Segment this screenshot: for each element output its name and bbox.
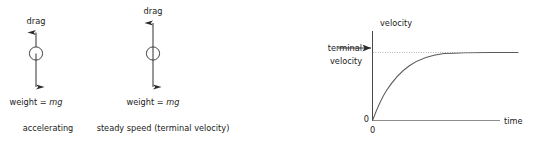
drag-label-2: drag [144, 6, 163, 16]
weight-label-2: weight = mg [127, 97, 180, 107]
weight-label-symbol-2: mg [166, 97, 179, 107]
chart-x-origin-label: 0 [370, 125, 375, 135]
velocity-curve [373, 53, 519, 121]
figure-root: drag weight = mg accelerating drag weigh… [0, 0, 536, 144]
weight-label-1: weight = mg [10, 97, 63, 107]
weight-label-symbol-1: mg [49, 97, 62, 107]
physics-figure-canvas: drag weight = mg accelerating drag weigh… [0, 0, 536, 144]
free-body-diagram-terminal-velocity: drag weight = mg steady speed (terminal … [97, 6, 230, 133]
terminal-velocity-annotation-line2: velocity [330, 56, 362, 66]
free-body-diagram-accelerating: drag weight = mg accelerating [10, 16, 74, 133]
velocity-time-chart: velocity time terminal velocity 0 0 [328, 18, 523, 135]
chart-x-axis-label: time [504, 116, 523, 126]
weight-label-prefix-2: weight = [127, 97, 167, 107]
chart-y-origin-label: 0 [364, 114, 369, 124]
caption-terminal-velocity: steady speed (terminal velocity) [97, 123, 230, 133]
drag-label-1: drag [27, 16, 46, 26]
caption-accelerating: accelerating [23, 123, 74, 133]
chart-y-axis-label: velocity [380, 18, 412, 28]
weight-label-prefix-1: weight = [10, 97, 50, 107]
